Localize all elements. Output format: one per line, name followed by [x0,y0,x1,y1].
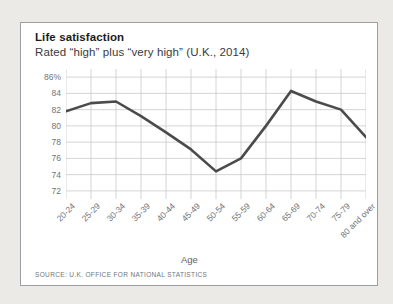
x-axis-tick-label: 70-74 [305,201,327,223]
chart-subtitle: Rated “high” plus “very high” (U.K., 201… [35,46,250,58]
gridlines [66,69,366,199]
x-axis-tick-label-text: 35-39 [130,201,152,223]
y-axis-tick-label: 82 [52,105,61,115]
x-axis-tick-label: 65-69 [280,201,302,223]
x-axis-tick-label: 20-24 [55,201,77,223]
y-axis-tick-label: 80 [52,121,61,131]
chart-card: Life satisfaction Rated “high” plus “ver… [20,22,378,286]
x-axis-tick-label-text: 30-34 [105,201,127,223]
x-axis-tick-label: 50-54 [205,201,227,223]
x-axis-tick-label: 30-34 [105,201,127,223]
line-chart-svg [66,69,366,199]
x-axis-tick-label: 25-29 [80,201,102,223]
y-axis-tick-label: 74 [52,170,61,180]
x-axis-tick-label-text: 75-79 [330,201,352,223]
y-axis-tick-labels: 86%84828078767472 [21,69,61,199]
x-axis-tick-label: 35-39 [130,201,152,223]
x-axis-tick-label-text: 45-49 [180,201,202,223]
x-axis-title: Age [181,254,198,265]
y-axis-tick-label: 78 [52,137,61,147]
y-axis-tick-label: 84 [52,88,61,98]
y-axis-tick-label: 86% [44,72,61,82]
x-axis-tick-label-text: 50-54 [205,201,227,223]
x-axis-tick-label-text: 25-29 [80,201,102,223]
x-axis-tick-label-text: 70-74 [305,201,327,223]
plot-area [66,69,366,199]
x-axis-tick-label: 45-49 [180,201,202,223]
source-note: SOURCE: U.K. OFFICE FOR NATIONAL STATIST… [35,271,207,278]
x-axis-tick-label: 60-64 [255,201,277,223]
x-axis-tick-label-text: 40-44 [155,201,177,223]
chart-title: Life satisfaction [35,31,124,43]
x-axis-tick-labels: 20-2425-2930-3435-3940-4445-4950-5455-59… [66,201,366,261]
y-axis-tick-label: 76 [52,153,61,163]
x-axis-tick-label: 55-59 [230,201,252,223]
x-axis-tick-label-text: 20-24 [55,201,77,223]
screenshot-root: Life satisfaction Rated “high” plus “ver… [0,0,393,304]
x-axis-tick-label-text: 55-59 [230,201,252,223]
x-axis-tick-label: 40-44 [155,201,177,223]
x-axis-tick-label-text: 65-69 [280,201,302,223]
x-axis-tick-label: 75-79 [330,201,352,223]
y-axis-tick-label: 72 [52,186,61,196]
x-axis-tick-label-text: 60-64 [255,201,277,223]
